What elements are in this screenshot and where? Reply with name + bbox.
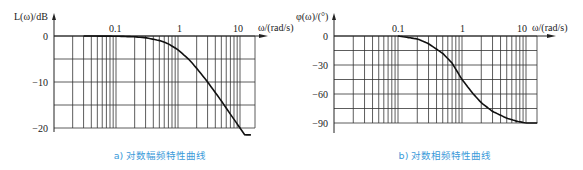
x-tick-label: 0.1 — [109, 23, 122, 34]
y-tick-label: −10 — [32, 77, 48, 88]
x-axis-arrow-icon — [259, 34, 268, 38]
magnitude-x-label: ω/(rad/s) — [258, 22, 293, 34]
y-tick-label: 0 — [43, 31, 48, 42]
x-axis-arrow-icon — [547, 34, 556, 38]
y-tick-label: −60 — [312, 89, 328, 100]
x-tick-label: 0.1 — [392, 23, 405, 34]
y-axis-arrow-icon — [52, 13, 56, 20]
magnitude-curve — [84, 36, 251, 135]
y-axis-arrow-icon — [332, 13, 336, 20]
x-tick-label: 10 — [517, 23, 527, 34]
y-tick-label: −90 — [312, 118, 328, 129]
x-tick-label: 10 — [233, 23, 243, 34]
magnitude-chart: L(ω)/dB ω/(rad/s) 0.1 1 10 0 −10 −20 a) … — [14, 11, 293, 161]
y-tick-label: 0 — [323, 31, 328, 42]
phase-y-label: φ(ω)/(°) — [296, 11, 328, 23]
magnitude-caption: a) 对数幅频特性曲线 — [114, 150, 207, 161]
magnitude-grid — [54, 36, 255, 128]
phase-x-label: ω/(rad/s) — [532, 22, 567, 34]
x-tick-label: 1 — [460, 23, 465, 34]
magnitude-y-label: L(ω)/dB — [14, 11, 48, 23]
x-tick-label: 1 — [177, 23, 182, 34]
y-tick-label: −20 — [32, 123, 48, 134]
phase-caption: b) 对数相频特性曲线 — [399, 150, 492, 161]
y-tick-label: −30 — [312, 60, 328, 71]
phase-chart: φ(ω)/(°) ω/(rad/s) 0.1 1 10 0 −30 −60 −9… — [296, 11, 567, 161]
